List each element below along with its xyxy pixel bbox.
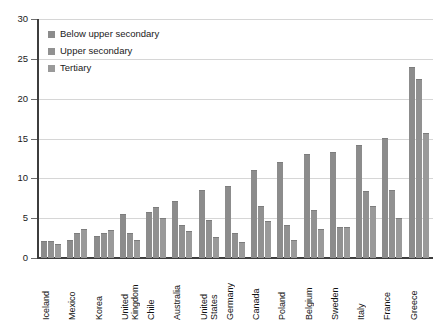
bar <box>55 244 61 258</box>
x-axis-label: Germany <box>225 262 235 320</box>
bar <box>356 145 362 258</box>
bar <box>396 218 402 258</box>
bar-group <box>356 19 379 258</box>
bar <box>232 233 238 258</box>
bar <box>311 210 317 258</box>
bar <box>318 229 324 258</box>
bar <box>199 190 205 258</box>
legend-label: Upper secondary <box>60 46 132 56</box>
bar <box>172 201 178 258</box>
x-axis-label: United Kingdom <box>120 262 140 320</box>
y-tick-label: 5 <box>0 213 28 223</box>
bar <box>258 206 264 258</box>
legend-entry-tertiary: Tertiary <box>48 61 159 75</box>
bar-group <box>409 19 432 258</box>
y-tick-mark <box>31 258 37 259</box>
bar <box>48 241 54 258</box>
bar <box>330 152 336 258</box>
bar <box>127 233 133 258</box>
bar <box>134 240 140 258</box>
bar <box>363 191 369 258</box>
x-axis-label: Korea <box>94 262 104 320</box>
x-axis-label: Mexico <box>67 262 77 320</box>
bar <box>277 162 283 258</box>
bar-group <box>251 19 274 258</box>
legend-label: Below upper secondary <box>60 29 159 39</box>
y-tick-label: 15 <box>0 134 28 144</box>
x-axis-label: Belgium <box>304 262 314 320</box>
bar <box>67 240 73 258</box>
bar <box>41 241 47 258</box>
bar-chart: 051015202530 IcelandMexicoKoreaUnited Ki… <box>0 0 440 326</box>
bar <box>423 133 429 258</box>
bar <box>251 170 257 258</box>
x-axis-label: Poland <box>277 262 287 320</box>
bar <box>265 221 271 258</box>
bar <box>81 229 87 258</box>
y-tick-mark <box>31 139 37 140</box>
bar-group <box>199 19 222 258</box>
x-axis-label: Chile <box>146 262 156 320</box>
legend-entry-below-upper-secondary: Below upper secondary <box>48 27 159 41</box>
x-axis-label: United States <box>199 262 219 320</box>
y-tick-label: 30 <box>0 14 28 24</box>
bar <box>225 186 231 258</box>
y-tick-label: 25 <box>0 54 28 64</box>
bar <box>108 230 114 258</box>
bar <box>416 79 422 258</box>
bar <box>160 218 166 258</box>
bar <box>146 212 152 258</box>
bar <box>213 237 219 258</box>
legend-label: Tertiary <box>60 63 91 73</box>
bar <box>206 220 212 258</box>
bar <box>179 225 185 258</box>
bar <box>101 233 107 258</box>
bar-group <box>225 19 248 258</box>
x-axis-label: France <box>382 262 392 320</box>
bar <box>382 138 388 258</box>
bar <box>337 227 343 258</box>
x-axis-label: Canada <box>251 262 261 320</box>
x-axis-label: Italy <box>356 262 366 320</box>
y-tick-mark <box>31 218 37 219</box>
chart-legend: Below upper secondary Upper secondary Te… <box>48 27 159 78</box>
bar <box>344 227 350 258</box>
bar <box>94 236 100 258</box>
x-axis-label: Iceland <box>41 262 51 320</box>
bar <box>304 154 310 258</box>
bar-group <box>277 19 300 258</box>
y-tick-label: 0 <box>0 253 28 263</box>
y-tick-label: 20 <box>0 94 28 104</box>
bar <box>239 242 245 258</box>
y-tick-mark <box>31 59 37 60</box>
bar <box>153 207 159 258</box>
bar <box>186 231 192 258</box>
y-tick-mark <box>31 99 37 100</box>
bar <box>389 190 395 258</box>
y-tick-mark <box>31 19 37 20</box>
bar <box>291 240 297 258</box>
x-axis-label: Australia <box>172 262 182 320</box>
bar <box>74 233 80 258</box>
bar <box>120 214 126 258</box>
x-axis-label: Sweden <box>330 262 340 320</box>
bar <box>370 206 376 258</box>
legend-swatch-icon <box>48 65 55 72</box>
bar-group <box>304 19 327 258</box>
bar-group <box>382 19 405 258</box>
bar <box>284 225 290 258</box>
bar-group <box>172 19 195 258</box>
legend-entry-upper-secondary: Upper secondary <box>48 44 159 58</box>
legend-swatch-icon <box>48 48 55 55</box>
y-tick-mark <box>31 178 37 179</box>
bar <box>409 67 415 258</box>
x-axis-label: Greece <box>409 262 419 320</box>
bar-group <box>330 19 353 258</box>
y-tick-label: 10 <box>0 173 28 183</box>
legend-swatch-icon <box>48 31 55 38</box>
